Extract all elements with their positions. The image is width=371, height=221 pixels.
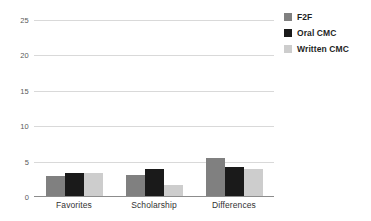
- y-axis-tick-label: 5: [25, 157, 29, 166]
- x-axis-line: [34, 196, 274, 197]
- chart-legend: F2FOral CMCWritten CMC: [284, 12, 349, 54]
- legend-swatch-icon: [284, 29, 292, 37]
- bar-group: [206, 20, 263, 196]
- bar-differences-written-cmc[interactable]: [244, 169, 263, 196]
- x-axis-label-differences: Differences: [194, 200, 274, 210]
- legend-swatch-icon: [284, 13, 292, 21]
- bar-groups: [34, 20, 274, 196]
- legend-label: F2F: [297, 12, 312, 22]
- y-axis-tick-label: 0: [25, 193, 29, 202]
- y-axis-tick-label: 10: [20, 122, 29, 131]
- bar-group: [46, 20, 103, 196]
- plot-area: 0510152025: [34, 20, 274, 197]
- bar-group: [126, 20, 183, 196]
- bar-favorites-written-cmc[interactable]: [84, 173, 103, 196]
- bar-favorites-f2f[interactable]: [46, 176, 65, 196]
- y-axis-tick-label: 15: [20, 86, 29, 95]
- legend-swatch-icon: [284, 45, 292, 53]
- x-axis-label-scholarship: Scholarship: [114, 200, 194, 210]
- x-axis-label-favorites: Favorites: [34, 200, 114, 210]
- legend-label: Written CMC: [297, 44, 349, 54]
- bar-scholarship-f2f[interactable]: [126, 175, 145, 196]
- bar-chart: 0510152025 FavoritesScholarshipDifferenc…: [0, 0, 371, 221]
- bar-scholarship-oral-cmc[interactable]: [145, 169, 164, 196]
- bar-differences-f2f[interactable]: [206, 158, 225, 196]
- legend-item-f2f[interactable]: F2F: [284, 12, 349, 22]
- bar-favorites-oral-cmc[interactable]: [65, 173, 84, 196]
- x-axis-labels: FavoritesScholarshipDifferences: [34, 200, 274, 210]
- bar-differences-oral-cmc[interactable]: [225, 167, 244, 196]
- y-axis-tick-label: 25: [20, 16, 29, 25]
- y-axis-tick-label: 20: [20, 51, 29, 60]
- legend-item-written-cmc[interactable]: Written CMC: [284, 44, 349, 54]
- legend-label: Oral CMC: [297, 28, 337, 38]
- bar-scholarship-written-cmc[interactable]: [164, 185, 183, 196]
- legend-item-oral-cmc[interactable]: Oral CMC: [284, 28, 349, 38]
